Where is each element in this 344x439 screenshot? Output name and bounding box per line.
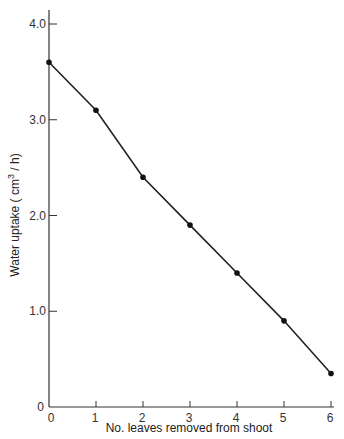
x-tick-label: 1 [92, 411, 99, 425]
data-point [234, 270, 240, 276]
y-axis-label: Water uptake ( cm3 / h) [6, 153, 22, 276]
x-axis-label: No. leaves removed from shoot [106, 421, 273, 435]
x-tick-label: 6 [327, 411, 334, 425]
data-point [93, 107, 99, 113]
line-chart: 01.02.03.04.0 0123456 No. leaves removed… [0, 0, 344, 439]
data-point [281, 318, 287, 324]
axes [49, 10, 334, 407]
x-tick-label: 5 [280, 411, 287, 425]
data-point [187, 222, 193, 228]
y-tick-label: 0 [37, 400, 44, 414]
y-tick-label: 2.0 [29, 209, 46, 223]
data-point [140, 174, 146, 180]
x-tick-label: 0 [48, 411, 55, 425]
y-tick-label: 4.0 [29, 17, 46, 31]
data-point [46, 60, 52, 66]
data-line [49, 62, 331, 373]
y-tick-label: 3.0 [29, 113, 46, 127]
y-tick-label: 1.0 [29, 304, 46, 318]
data-point [328, 371, 334, 377]
y-axis-ticks: 01.02.03.04.0 [29, 17, 57, 414]
